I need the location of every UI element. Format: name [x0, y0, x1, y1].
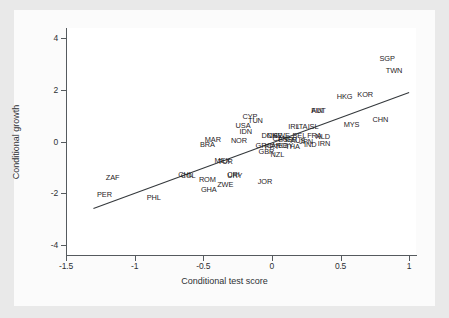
- data-point-label: ZWE: [217, 180, 233, 189]
- x-tick-label: -1: [131, 261, 138, 271]
- data-point-label: MYS: [344, 120, 360, 129]
- y-tick-label: -4: [51, 240, 58, 250]
- data-point-label: IDN: [240, 127, 252, 136]
- y-tick-mark: [61, 142, 66, 143]
- data-point-label: KOR: [357, 90, 373, 99]
- data-point-label: PHL: [147, 192, 161, 201]
- data-point-label: THA: [285, 141, 299, 150]
- x-tick-label: 0: [270, 261, 275, 271]
- x-axis-title: Conditional test score: [0, 276, 449, 286]
- x-tick-label: 1: [407, 261, 412, 271]
- data-point-label: COL: [181, 171, 196, 180]
- data-point-label: IRN: [318, 139, 330, 148]
- data-point-label: BRA: [200, 140, 215, 149]
- y-tick-mark: [61, 38, 66, 39]
- figure-container: 420-2-4 -1.5-1-0.500.51 SGPTWNHKGKORCHNM…: [0, 0, 449, 318]
- x-tick-label: -0.5: [196, 261, 210, 271]
- data-point-label: ITA: [297, 122, 308, 131]
- data-point-label: ZAF: [106, 173, 120, 182]
- y-axis-line: [66, 28, 67, 256]
- data-point-label: PER: [97, 189, 112, 198]
- data-point-label: URY: [227, 171, 242, 180]
- y-tick-mark: [61, 90, 66, 91]
- x-axis-line: [66, 255, 417, 256]
- data-point-label: NZL: [271, 149, 285, 158]
- y-tick-label: 2: [53, 85, 58, 95]
- data-point-label: GHA: [201, 185, 217, 194]
- data-point-label: ROM: [199, 174, 216, 183]
- data-point-label: ISL: [308, 121, 319, 130]
- y-axis-title: Conditional growth: [11, 105, 21, 180]
- data-point-label: IND: [304, 140, 316, 149]
- data-point-label: JOR: [258, 176, 272, 185]
- y-tick-label: -2: [51, 188, 58, 198]
- x-tick-label: -1.5: [59, 261, 73, 271]
- data-point-label: TWN: [386, 66, 403, 75]
- data-point-label: HKG: [337, 91, 353, 100]
- y-tick-label: 0: [53, 137, 58, 147]
- data-point-label: NOR: [231, 136, 247, 145]
- x-tick-label: 0.5: [335, 261, 346, 271]
- y-tick-mark: [61, 193, 66, 194]
- y-tick-mark: [61, 245, 66, 246]
- y-tick-label: 4: [53, 33, 58, 43]
- data-point-label: CHN: [372, 115, 388, 124]
- data-point-label: SGP: [380, 54, 395, 63]
- data-point-label: AUT: [311, 106, 325, 115]
- data-point-label: TUR: [218, 156, 233, 165]
